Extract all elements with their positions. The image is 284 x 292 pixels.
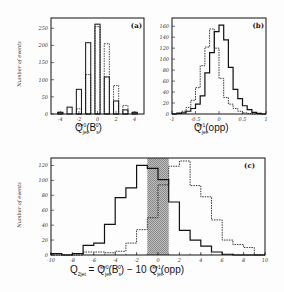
x-title-c-q: Q: [70, 264, 78, 275]
y-tick-label: 100: [38, 77, 48, 83]
x-tick-label: -2: [134, 257, 139, 263]
x-title-b-arg: (opp): [205, 122, 228, 133]
histogram-dashed: [172, 29, 266, 114]
panel-label-c: (c): [244, 161, 255, 170]
plot-frame: [172, 18, 266, 114]
y-tick-label: 40: [41, 222, 49, 228]
y-tick-label: 60: [163, 78, 170, 84]
x-title-a-close: ): [99, 122, 102, 133]
bar-solid: [67, 107, 72, 114]
y-tick-label: 100: [38, 177, 48, 183]
bar-dashed: [114, 86, 119, 114]
y-tick-label: 120: [159, 45, 169, 51]
x-tick-label: -4: [58, 116, 63, 122]
panel-label-a: (a): [131, 21, 142, 30]
y-tick-label: 50: [42, 94, 49, 100]
y-tick-label: 160: [159, 23, 169, 29]
x-tick-label: 1: [264, 116, 267, 122]
panel-c-histogram: 020406080100120-10-8-6-4-20246810(c): [38, 158, 269, 263]
bar-solid: [123, 110, 128, 114]
x-tick-label: -6: [91, 257, 97, 263]
x-tick-label: -8: [70, 257, 75, 263]
x-title-c-end: (opp): [161, 264, 184, 275]
y-tick-label: 20: [41, 237, 49, 243]
x-title-c-sub: 2jet: [78, 271, 86, 277]
y-tick-label: 0: [45, 111, 49, 117]
x-axis-title-b: Qjetκ=1(opp): [194, 122, 229, 135]
x-tick-label: 2: [114, 116, 118, 122]
bar-solid: [104, 77, 109, 114]
y-axis-label-c: Number of events: [16, 182, 23, 229]
bar-dashed: [95, 27, 100, 114]
x-tick-label: 0.5: [239, 116, 247, 122]
x-tick-label: 4: [132, 116, 136, 122]
y-tick-label: 100: [159, 56, 169, 62]
x-tick-label: -4: [113, 257, 118, 263]
figure-canvas: Number of events Number of events 050100…: [0, 0, 284, 292]
panel-label-b: (b): [252, 21, 264, 30]
bar-solid: [95, 24, 100, 114]
x-tick-label: 4: [198, 257, 202, 263]
panel-b-histogram: 020406080100120140160-1-0.500.51(b): [159, 18, 267, 122]
y-tick-label: 20: [162, 100, 170, 106]
bar-dashed: [86, 75, 91, 114]
y-axis-label-a: Number of events: [16, 41, 23, 88]
panel-a-histogram: 050100150200250-4-2024(a): [37, 18, 144, 122]
bar-dashed: [104, 44, 109, 114]
x-tick-label: -1: [170, 116, 175, 122]
x-title-c-sup3: κ=1: [152, 264, 160, 270]
x-title-c-sup2: κ=0: [100, 264, 108, 270]
x-axis-title-c: Q2jet = Qjetκ=0(Bs0) − 10 Qjetκ=1(opp): [70, 264, 184, 277]
plot-frame: [51, 18, 144, 114]
bar-solid: [76, 89, 81, 114]
bar-solid: [86, 43, 91, 114]
x-tick-label: 2: [177, 257, 181, 263]
x-tick-label: 6: [221, 257, 225, 263]
x-tick-label: 0: [156, 257, 160, 263]
y-tick-label: 40: [162, 89, 170, 95]
y-tick-label: 120: [38, 162, 48, 168]
x-tick-label: 10: [262, 257, 269, 263]
y-tick-label: 250: [37, 25, 48, 31]
x-axis-title-a: Qjetκ=0(Bs0): [75, 122, 102, 135]
y-tick-label: 80: [42, 192, 49, 198]
x-tick-label: -10: [47, 257, 56, 263]
y-tick-label: 60: [42, 207, 49, 213]
y-tick-label: 140: [159, 34, 169, 40]
x-tick-label: 8: [242, 257, 245, 263]
y-tick-label: 150: [38, 59, 48, 65]
x-title-a-arg: (B: [86, 122, 96, 133]
y-tick-label: 80: [163, 67, 170, 73]
y-tick-label: 200: [37, 42, 48, 48]
